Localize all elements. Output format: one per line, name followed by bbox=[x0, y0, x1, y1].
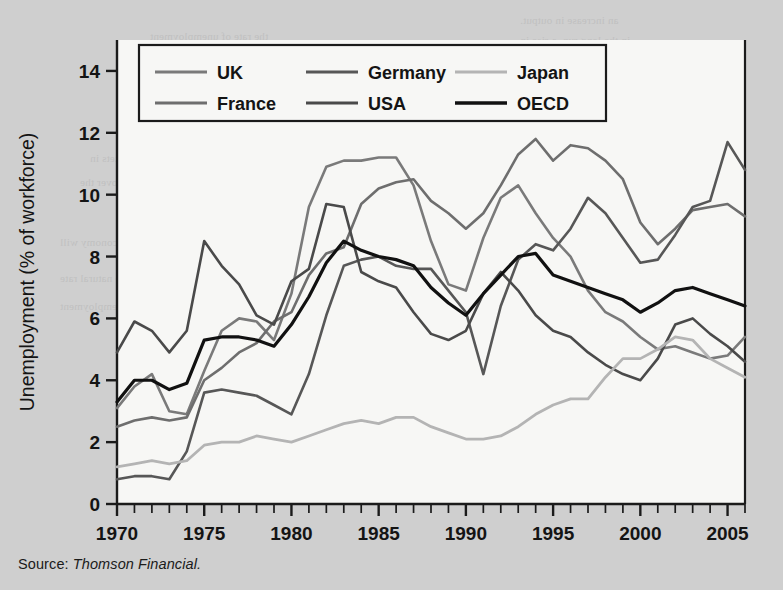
y-tick-label: 2 bbox=[89, 432, 100, 453]
y-tick-label: 14 bbox=[79, 61, 101, 82]
y-tick-label: 6 bbox=[89, 308, 100, 329]
y-tick-label: 12 bbox=[79, 123, 100, 144]
source-note: Source: Thomson Financial. bbox=[18, 556, 201, 572]
legend-label-uk: UK bbox=[217, 63, 243, 83]
legend-label-japan: Japan bbox=[517, 63, 569, 83]
unemployment-line-chart-figure: Unemployment (% of workforce) 0246810121… bbox=[0, 0, 783, 590]
y-axis-title: Unemployment (% of workforce) bbox=[16, 133, 38, 412]
x-axis-ticks: 19701975198019851990199520002005 bbox=[96, 504, 749, 544]
source-label: Source: bbox=[18, 556, 69, 572]
y-tick-label: 8 bbox=[89, 247, 100, 268]
legend-label-usa: USA bbox=[368, 94, 406, 114]
x-tick-label: 2000 bbox=[619, 523, 661, 544]
x-tick-label: 1995 bbox=[532, 523, 575, 544]
legend-label-france: France bbox=[217, 94, 276, 114]
legend-label-oecd: OECD bbox=[517, 94, 569, 114]
y-tick-label: 4 bbox=[89, 370, 100, 391]
chart-legend[interactable]: UKGermanyJapanFranceUSAOECD bbox=[139, 45, 606, 121]
source-name: Thomson Financial. bbox=[73, 556, 201, 572]
x-tick-label: 1990 bbox=[445, 523, 487, 544]
y-axis-ticks: 02468101214 bbox=[79, 61, 117, 515]
y-tick-label: 0 bbox=[89, 494, 100, 515]
chart-canvas: Unemployment (% of workforce) 0246810121… bbox=[0, 0, 783, 546]
x-tick-label: 1970 bbox=[96, 523, 138, 544]
x-tick-label: 1980 bbox=[270, 523, 312, 544]
x-tick-label: 1975 bbox=[183, 523, 226, 544]
x-tick-label: 1985 bbox=[358, 523, 401, 544]
x-tick-label: 2005 bbox=[706, 523, 749, 544]
y-tick-label: 10 bbox=[79, 185, 100, 206]
legend-label-germany: Germany bbox=[368, 63, 446, 83]
